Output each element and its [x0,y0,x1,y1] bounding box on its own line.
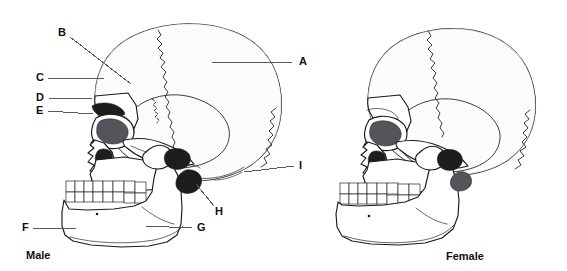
skull-diagram-svg: A B C D E F G H I Male Female [0,0,567,271]
male-mental-foramen [96,213,99,216]
label-I: I [299,159,302,171]
label-D: D [36,91,44,103]
label-A: A [299,55,307,67]
female-upper-teeth [340,183,420,195]
label-B: B [58,26,66,38]
male-upper-teeth [66,181,146,193]
caption-female: Female [446,250,484,262]
label-C: C [36,71,44,83]
label-G: G [197,221,206,233]
label-H: H [215,205,223,217]
label-F: F [22,221,29,233]
caption-male: Male [26,249,50,261]
label-E: E [36,104,43,116]
female-mandibular-condyle [437,150,462,171]
female-mental-foramen [368,215,371,218]
male-lower-teeth [66,192,146,203]
male-mandibular-condyle [164,149,190,170]
skull-comparison-figure: A B C D E F G H I Male Female [0,0,567,271]
